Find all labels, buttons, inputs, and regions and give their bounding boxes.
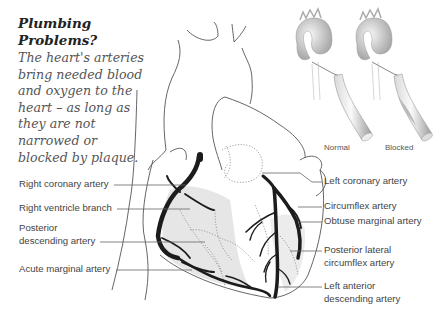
caption-normal: Normal xyxy=(324,143,350,152)
caption-blocked: Blocked xyxy=(385,143,413,152)
label-circumflex-artery: Circumflex artery xyxy=(324,200,397,213)
label-left-anterior-descending-artery: Left anterior descending artery xyxy=(324,280,400,305)
artery-origin xyxy=(197,152,203,162)
label-line-1: Posterior xyxy=(19,222,95,235)
label-line-1: Left anterior xyxy=(324,280,400,293)
label-line-2: descending artery xyxy=(19,235,95,248)
label-right-coronary-artery: Right coronary artery xyxy=(19,178,109,191)
label-left-coronary-artery: Left coronary artery xyxy=(324,175,407,188)
label-posterior-descending-artery: Posterior descending artery xyxy=(19,222,95,247)
label-acute-marginal-artery: Acute marginal artery xyxy=(19,263,110,276)
label-posterior-lateral-circumflex-artery: Posterior lateral circumflex artery xyxy=(324,244,394,269)
label-line-2: circumflex artery xyxy=(324,257,394,270)
label-right-ventricle-branch: Right ventricle branch xyxy=(19,202,112,215)
label-line-2: descending artery xyxy=(324,293,400,306)
label-line-1: Posterior lateral xyxy=(324,244,394,257)
label-obtuse-marginal-artery: Obtuse marginal artery xyxy=(324,215,422,228)
inset-blocked-artery xyxy=(356,9,434,143)
